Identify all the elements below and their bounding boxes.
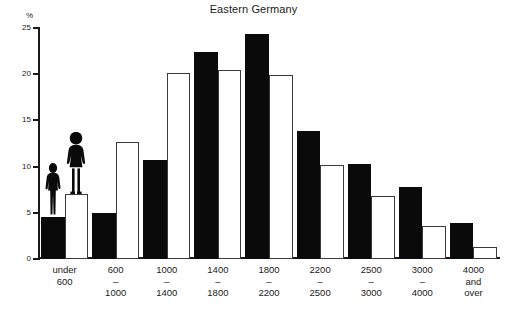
bar-men-4	[245, 34, 269, 259]
bar-women-6	[371, 196, 395, 259]
y-axis-unit-label: %	[26, 12, 33, 20]
bar-men-1	[92, 213, 116, 259]
bar-women-7	[422, 226, 446, 259]
bar-women-4	[269, 75, 293, 259]
y-axis-tick-label: 25	[0, 24, 31, 32]
male-silhouette-icon	[42, 162, 64, 216]
x-axis-label-8: 4000andover	[444, 264, 503, 299]
bar-women-0	[65, 194, 89, 259]
bar-men-3	[194, 52, 218, 259]
bar-men-2	[143, 160, 167, 259]
y-axis-tick-label: 10	[0, 163, 31, 171]
plot-area	[38, 28, 500, 259]
bar-men-8	[450, 223, 474, 259]
bar-women-2	[167, 73, 191, 259]
bar-women-3	[218, 70, 242, 259]
bar-men-6	[348, 164, 372, 259]
chart-title: Eastern Germany	[0, 3, 507, 15]
y-axis-tick-label: 15	[0, 116, 31, 124]
bar-women-1	[116, 142, 140, 259]
female-silhouette-icon	[64, 132, 88, 194]
bar-men-5	[297, 131, 321, 259]
bar-men-0	[41, 217, 65, 260]
bar-men-7	[399, 187, 423, 259]
y-axis-tick-label: 0	[0, 255, 31, 263]
y-axis-tick-label: 20	[0, 70, 31, 78]
chart-container: Eastern Germany % 0510152025 under600600…	[0, 0, 507, 315]
bar-women-5	[320, 165, 344, 259]
y-axis-tick-label: 5	[0, 209, 31, 217]
bar-women-8	[473, 247, 497, 259]
